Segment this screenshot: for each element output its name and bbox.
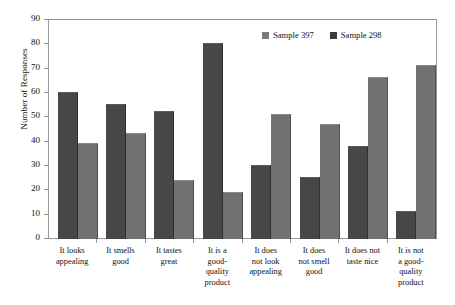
y-tick-label-30: 30 bbox=[31, 159, 40, 169]
x-axis-label: It is agood-qualityproduct bbox=[193, 246, 241, 288]
bar bbox=[154, 111, 174, 239]
x-axis-label-line: good bbox=[290, 267, 338, 278]
bar bbox=[203, 43, 223, 239]
x-axis-label-line: quality bbox=[387, 267, 435, 278]
bar bbox=[58, 92, 78, 239]
x-tick-mark bbox=[338, 239, 339, 243]
legend: Sample 397 Sample 298 bbox=[262, 30, 382, 40]
x-tick-mark bbox=[290, 239, 291, 243]
y-tick-40: 40 bbox=[0, 141, 48, 142]
x-axis-label-line: appealing bbox=[48, 257, 96, 268]
x-axis-label: It doesnot lookappealing bbox=[242, 246, 290, 278]
y-tick-60: 60 bbox=[0, 92, 48, 93]
x-axis-label: It does nottaste nice bbox=[338, 246, 386, 267]
x-axis-label-line: It does not bbox=[338, 246, 386, 257]
y-tick-label-90: 90 bbox=[31, 13, 40, 23]
bar-group bbox=[396, 20, 427, 239]
bar bbox=[300, 177, 320, 239]
bar-group bbox=[154, 20, 185, 239]
bar-group bbox=[348, 20, 379, 239]
bar bbox=[251, 165, 271, 239]
y-axis-ticks: 9080706050403020100 bbox=[0, 19, 48, 239]
y-tick-label-80: 80 bbox=[31, 37, 40, 47]
legend-label-1: Sample 298 bbox=[341, 30, 382, 40]
bar-group bbox=[58, 20, 89, 239]
x-axis-label: It tastesgreat bbox=[145, 246, 193, 267]
bar-chart: Number of Responses 9080706050403020100 … bbox=[0, 0, 455, 305]
bar-group bbox=[106, 20, 137, 239]
x-tick-mark bbox=[242, 239, 243, 243]
x-axis-label: It doesnot smellgood bbox=[290, 246, 338, 278]
y-tick-0: 0 bbox=[0, 238, 48, 239]
bar bbox=[416, 65, 436, 239]
bar bbox=[106, 104, 126, 239]
x-axis-label-line: good- bbox=[193, 257, 241, 268]
x-axis-label-line: It looks bbox=[48, 246, 96, 257]
x-axis-label-line: good bbox=[96, 257, 144, 268]
x-axis-label-line: It does bbox=[290, 246, 338, 257]
bar bbox=[174, 180, 194, 239]
y-tick-30: 30 bbox=[0, 165, 48, 166]
x-axis-label: It is nota good-qualityproduct bbox=[387, 246, 435, 288]
bar bbox=[78, 143, 98, 239]
x-tick-mark bbox=[193, 239, 194, 243]
y-tick-20: 20 bbox=[0, 189, 48, 190]
bar bbox=[271, 114, 291, 239]
bar-group bbox=[203, 20, 234, 239]
y-tick-90: 90 bbox=[0, 19, 48, 20]
bar bbox=[396, 211, 416, 239]
x-axis-label-line: appealing bbox=[242, 267, 290, 278]
x-tick-mark bbox=[96, 239, 97, 243]
y-tick-label-50: 50 bbox=[31, 110, 40, 120]
bars-layer bbox=[49, 20, 436, 239]
x-axis-ticks bbox=[48, 239, 437, 244]
x-axis-label-line: taste nice bbox=[338, 257, 386, 268]
x-axis-labels: It looksappealingIt smellsgoodIt tastesg… bbox=[48, 246, 437, 304]
x-axis-label: It smellsgood bbox=[96, 246, 144, 267]
x-axis-label-line: not smell bbox=[290, 257, 338, 268]
x-axis-label-line: It is a bbox=[193, 246, 241, 257]
y-tick-label-70: 70 bbox=[31, 62, 40, 72]
x-axis-label-line: not look bbox=[242, 257, 290, 268]
legend-swatch-icon-0 bbox=[262, 32, 269, 39]
x-axis-label-line: It is not bbox=[387, 246, 435, 257]
x-axis-label: It looksappealing bbox=[48, 246, 96, 267]
y-tick-label-20: 20 bbox=[31, 183, 40, 193]
y-tick-80: 80 bbox=[0, 43, 48, 44]
x-axis-label-line: product bbox=[387, 278, 435, 289]
x-axis-label-line: a good- bbox=[387, 257, 435, 268]
legend-item-0[interactable]: Sample 397 bbox=[262, 30, 314, 40]
x-axis-label-line: It does bbox=[242, 246, 290, 257]
legend-item-1[interactable]: Sample 298 bbox=[330, 30, 382, 40]
x-tick-mark bbox=[145, 239, 146, 243]
legend-swatch-icon-1 bbox=[330, 32, 337, 39]
x-axis-label-line: quality bbox=[193, 267, 241, 278]
y-tick-label-0: 0 bbox=[36, 232, 41, 242]
bar-group bbox=[300, 20, 331, 239]
y-tick-label-10: 10 bbox=[31, 208, 40, 218]
bar bbox=[223, 192, 243, 239]
x-tick-mark bbox=[387, 239, 388, 243]
legend-label-0: Sample 397 bbox=[273, 30, 314, 40]
bar bbox=[368, 77, 388, 239]
bar bbox=[126, 133, 146, 239]
x-axis-label-line: product bbox=[193, 278, 241, 289]
y-tick-label-60: 60 bbox=[31, 86, 40, 96]
bar bbox=[348, 146, 368, 239]
bar bbox=[320, 124, 340, 239]
x-axis-label-line: It smells bbox=[96, 246, 144, 257]
x-axis-label-line: It tastes bbox=[145, 246, 193, 257]
y-tick-50: 50 bbox=[0, 116, 48, 117]
y-tick-label-40: 40 bbox=[31, 135, 40, 145]
bar-group bbox=[251, 20, 282, 239]
y-tick-10: 10 bbox=[0, 214, 48, 215]
x-axis-label-line: great bbox=[145, 257, 193, 268]
y-tick-70: 70 bbox=[0, 68, 48, 69]
